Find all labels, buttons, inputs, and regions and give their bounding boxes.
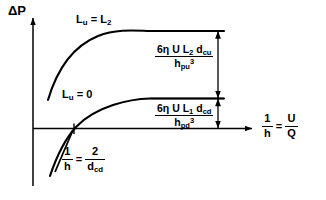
l-n-2: d	[193, 102, 202, 114]
intercept-lhs-num: 1	[62, 146, 73, 160]
intercept-rhs-den-base: d	[87, 160, 94, 172]
u-d-1: pu	[181, 62, 190, 71]
intercept-row: 1 h = 2 dcd	[62, 146, 105, 173]
curve-lower-base: L	[62, 88, 69, 100]
intercept-lhs-den: h	[62, 160, 73, 173]
x-axis-rhs-num: U	[285, 113, 298, 127]
upper-fraction-denominator: hpu3	[155, 57, 213, 69]
lower-fraction-numerator: 6η U L1 dcd	[155, 103, 213, 116]
lower-plateau-expression: 6η U L1 dcd hpd3	[155, 103, 213, 129]
lower-fraction-denominator: hpd3	[155, 116, 213, 128]
curve-upper-sub: u	[83, 18, 88, 27]
curve-upper-rhs-sub: 2	[107, 18, 111, 27]
x-axis-lhs-num: 1	[262, 113, 273, 127]
lower-fraction: 6η U L1 dcd hpd3	[155, 103, 213, 129]
l-d-1: pd	[181, 121, 190, 130]
u-d-0: h	[174, 57, 180, 69]
u-n-1: 2	[189, 48, 193, 57]
upper-plateau-expression: 6η U L2 dcu hpu3	[155, 44, 213, 70]
intercept-rhs-num: 2	[85, 146, 105, 160]
curve-lower-equals: =	[77, 88, 83, 100]
intercept-rhs-fraction: 2 dcd	[85, 146, 105, 173]
curve-lower-rhs-base: 0	[86, 88, 92, 100]
intercept-lhs-fraction: 1 h	[62, 146, 73, 173]
l-d-2: 3	[190, 116, 194, 125]
x-axis-label: 1 h = U Q	[262, 113, 298, 140]
upper-fraction-numerator: 6η U L2 dcu	[155, 44, 213, 57]
u-n-2: d	[193, 43, 202, 55]
intercept-rhs-den: dcd	[85, 160, 105, 173]
l-n-0: 6η U L	[157, 102, 189, 114]
u-n-0: 6η U L	[157, 43, 189, 55]
l-d-0: h	[174, 116, 180, 128]
curve-label-upper: Lu = L2	[76, 14, 111, 25]
x-intercept-annotation: 1 h = 2 dcd	[62, 146, 105, 173]
plot-figure: ΔP Lu = L2 Lu = 0 6η U L2 dcu hpu3 6η U …	[0, 0, 326, 200]
u-d-2: 3	[190, 57, 194, 66]
x-axis-lhs-fraction: 1 h	[262, 113, 273, 140]
upper-fraction: 6η U L2 dcu hpu3	[155, 44, 213, 70]
intercept-equals: =	[76, 154, 82, 165]
y-axis-label: ΔP	[8, 4, 26, 17]
curve-lower-sub: u	[69, 93, 74, 102]
x-axis-lhs-den: h	[262, 127, 273, 140]
x-axis-rhs-den: Q	[285, 127, 298, 140]
x-axis-equals: =	[276, 121, 282, 132]
l-n-3: cd	[203, 107, 212, 116]
u-n-3: cu	[203, 48, 212, 57]
curve-upper-base: L	[76, 13, 83, 25]
curve-label-lower: Lu = 0	[62, 89, 92, 100]
x-axis-label-row: 1 h = U Q	[262, 113, 298, 140]
plot-canvas	[0, 0, 326, 200]
intercept-rhs-den-sub: cd	[94, 165, 103, 174]
l-n-1: 1	[189, 107, 193, 116]
x-axis-rhs-fraction: U Q	[285, 113, 298, 140]
curve-upper-equals: =	[91, 13, 97, 25]
curve-upper-rhs-base: L	[100, 13, 107, 25]
